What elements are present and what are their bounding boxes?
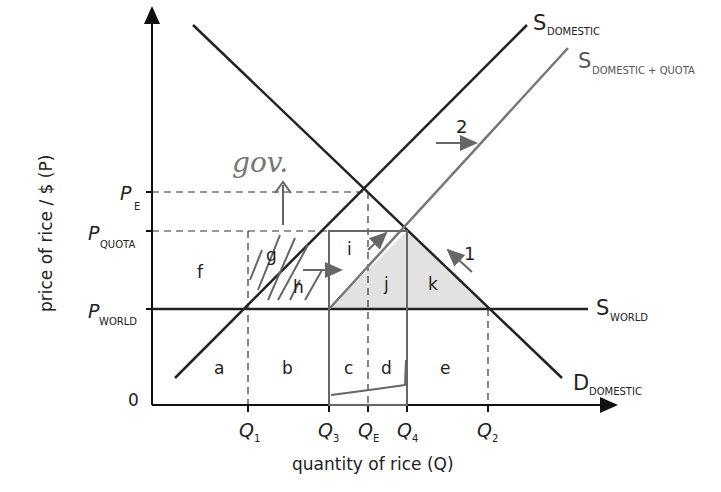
- svg-text:2: 2: [492, 433, 498, 444]
- y-axis-title: price of rice / $ (P): [36, 155, 56, 312]
- price-labels: P E P QUOTA P WORLD: [88, 182, 140, 327]
- arrow-up-quota: [368, 233, 386, 250]
- svg-text:a: a: [214, 358, 224, 378]
- gov-annotation: gov.: [232, 146, 288, 179]
- svg-text:D: D: [573, 371, 589, 395]
- svg-text:DOMESTIC: DOMESTIC: [589, 386, 642, 397]
- svg-text:Q: Q: [477, 419, 492, 441]
- s-domestic-line: [175, 25, 527, 378]
- svg-text:S: S: [578, 49, 591, 73]
- svg-text:DOMESTIC + QUOTA: DOMESTIC + QUOTA: [592, 65, 695, 76]
- svg-text:c: c: [344, 358, 353, 378]
- svg-text:WORLD: WORLD: [610, 312, 648, 323]
- svg-text:E: E: [373, 433, 379, 444]
- svg-text:P: P: [120, 182, 132, 204]
- svg-text:i: i: [347, 239, 352, 259]
- svg-text:j: j: [383, 274, 389, 294]
- svg-text:Q: Q: [397, 419, 412, 441]
- svg-text:4: 4: [412, 433, 418, 444]
- svg-text:3: 3: [333, 433, 339, 444]
- svg-text:k: k: [428, 274, 438, 294]
- svg-text:Q: Q: [318, 419, 333, 441]
- svg-text:QUOTA: QUOTA: [100, 239, 135, 250]
- curve-labels: S DOMESTIC S DOMESTIC + QUOTA S WORLD D …: [533, 11, 695, 397]
- svg-text:b: b: [282, 358, 293, 378]
- svg-text:d: d: [381, 358, 392, 378]
- arrow-label-2: 2: [456, 116, 467, 137]
- svg-text:1: 1: [254, 433, 260, 444]
- svg-text:P: P: [88, 222, 100, 244]
- svg-text:E: E: [134, 201, 140, 212]
- svg-text:Q: Q: [358, 419, 373, 441]
- x-axis-title: quantity of rice (Q): [292, 454, 454, 474]
- svg-text:h: h: [293, 277, 304, 297]
- svg-text:f: f: [197, 262, 204, 282]
- quota-diagram: gov. 2 1 a b c d e f g h i j k P E P QUO…: [0, 0, 721, 492]
- svg-text:Q: Q: [239, 419, 254, 441]
- svg-text:e: e: [440, 358, 450, 378]
- svg-text:S: S: [596, 296, 609, 320]
- svg-text:S: S: [533, 11, 546, 35]
- origin-label: 0: [128, 390, 139, 410]
- svg-text:DOMESTIC: DOMESTIC: [547, 26, 600, 37]
- svg-text:g: g: [266, 245, 277, 265]
- arrow-label-1: 1: [464, 243, 475, 264]
- quantity-labels: Q 1 Q 3 Q E Q 4 Q 2: [239, 419, 498, 444]
- svg-text:WORLD: WORLD: [99, 316, 137, 327]
- d-domestic-line: [193, 25, 562, 378]
